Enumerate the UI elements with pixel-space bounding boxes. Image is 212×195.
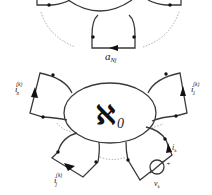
dotted-arc-bottom (100, 157, 127, 160)
top-left-branch (37, 0, 70, 5)
branch-label-a: aNj (105, 50, 117, 63)
network-symbol: ℵ0 (96, 100, 124, 131)
top-network-ellipse-arc (68, 0, 132, 11)
label-v-k: vk (154, 179, 161, 189)
arrow-up-icon (31, 87, 38, 98)
top-panel: aNj (37, 0, 181, 63)
node-dot (174, 114, 177, 117)
node-dot (168, 3, 171, 6)
label-i-1: i1(k) (191, 81, 200, 96)
label-i-n: in(k) (15, 81, 23, 96)
node-dot (56, 150, 59, 153)
dotted-arc-left (41, 12, 75, 47)
node-dot (91, 35, 94, 38)
node-dot (126, 158, 129, 161)
node-dot (47, 3, 50, 6)
node-dot (51, 73, 54, 76)
dotted-arc-right (143, 12, 179, 47)
top-bottom-branch (92, 15, 135, 48)
node-dot (164, 72, 167, 75)
node-dot (41, 115, 44, 118)
diagram-canvas: aNj ℵ0 in(k) i1(k) ij(k) (0, 0, 212, 195)
node-dot (163, 137, 166, 140)
branch-j-loop (52, 133, 99, 177)
branch-1-loop (148, 73, 187, 121)
label-i-k: ik (172, 143, 177, 153)
polarity-plus: + (166, 160, 171, 168)
top-right-branch (148, 0, 181, 5)
label-i-j: ij(k) (54, 172, 62, 187)
node-dot (132, 35, 135, 38)
node-dot (94, 160, 97, 163)
bottom-panel: ℵ0 in(k) i1(k) ij(k) i (15, 72, 200, 189)
branch-k-loop (126, 127, 172, 180)
arrow-up-icon (180, 86, 186, 96)
